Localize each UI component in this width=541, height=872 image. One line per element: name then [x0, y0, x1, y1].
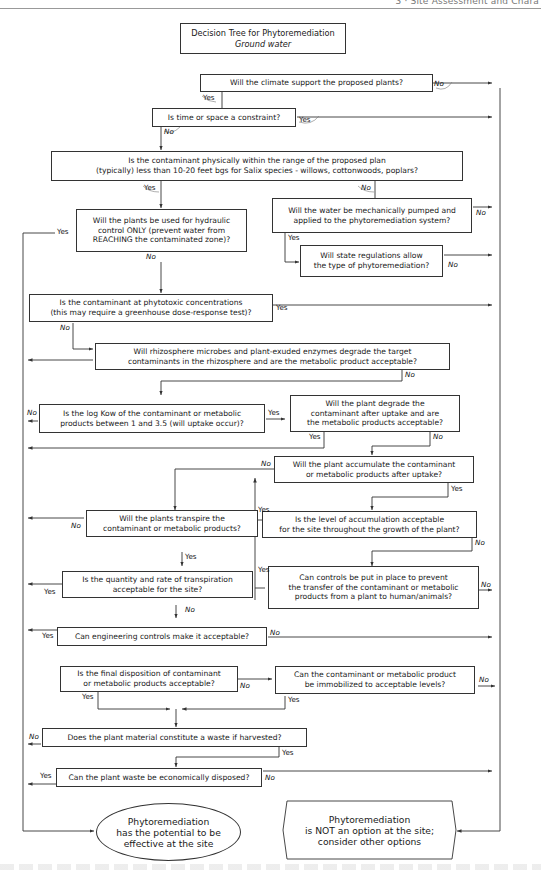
label-waste-no: No [29, 733, 39, 741]
label-immobilized-yes: Yes [288, 696, 300, 704]
label-transprate-no: No [185, 606, 195, 614]
label-timespace-no: No [164, 128, 174, 136]
label-accumulate-yes: Yes [451, 485, 463, 493]
label-transpire-no: No [71, 522, 81, 530]
node-contaminant-range: Is the contaminant physically within the… [51, 151, 463, 181]
figure-caption-cropped [0, 864, 541, 870]
outcome-not-option: Phytoremediation is NOT an option at the… [282, 800, 457, 860]
node-transpiration-rate: Is the quantity and rate of transpiratio… [62, 571, 253, 598]
label-accumlevel-no: No [475, 539, 485, 547]
label-degrade-no: No [433, 433, 443, 441]
label-immobilized-no: No [479, 676, 489, 684]
node-plant-degrade: Will the plant degrade the contaminant a… [290, 395, 460, 432]
label-disposed-yes: Yes [40, 772, 52, 780]
diagram-title-box: Decision Tree for Phytoremediation Groun… [180, 23, 346, 54]
label-range-no: No [361, 184, 371, 192]
label-controls-no: No [481, 581, 491, 589]
label-degrade-yes: Yes [309, 433, 321, 441]
node-final-disposition: Is the final disposition of contaminant … [60, 666, 238, 692]
node-accumulation-level: Is the level of accumulation acceptable … [262, 511, 477, 538]
label-accumulate-no: No [261, 460, 271, 468]
label-phytotoxic-no: No [60, 324, 70, 332]
label-stateregs-no: No [448, 261, 458, 269]
node-plant-accumulate: Will the plant accumulate the contaminan… [274, 456, 474, 483]
label-rhizosphere-no: No [405, 371, 415, 379]
diagram-subtitle: Ground water [181, 39, 345, 50]
label-transprate-yes: Yes [44, 588, 56, 596]
node-hydraulic-control: Will the plants be used for hydraulic co… [76, 209, 247, 252]
node-immobilized: Can the contaminant or metabolic product… [275, 666, 475, 694]
label-controls-yes: Yes [258, 566, 270, 574]
label-climate-no: No [434, 80, 444, 88]
label-engineering-yes: Yes [42, 632, 54, 640]
node-engineering-controls: Can engineering controls make it accepta… [57, 627, 267, 646]
label-transpire-yes: Yes [185, 553, 197, 561]
label-timespace-yes: Yes [299, 116, 311, 124]
node-log-kow: Is the log Kow of the contaminant or met… [39, 404, 265, 433]
label-hydraulic-yes: Yes [57, 228, 69, 236]
label-pumped-no: No [476, 209, 486, 217]
label-climate-yes: Yes [203, 94, 215, 102]
node-time-space: Is time or space a constraint? [152, 108, 296, 127]
node-economic-disposal: Can the plant waste be economically disp… [56, 768, 262, 787]
label-phytotoxic-yes: Yes [276, 304, 288, 312]
node-rhizosphere: Will rhizosphere microbes and plant-exud… [95, 343, 450, 370]
label-engineering-no: No [270, 629, 280, 637]
label-finaldisp-no: No [240, 682, 250, 690]
label-range-yes: Yes [144, 184, 156, 192]
node-plants-transpire: Will the plants transpire the contaminan… [86, 510, 258, 537]
label-logkow-no: No [27, 409, 37, 417]
label-logkow-yes: Yes [268, 409, 280, 417]
node-transfer-controls: Can controls be put in place to prevent … [268, 566, 479, 609]
label-finaldisp-yes: Yes [82, 693, 94, 701]
label-pumped-yes: Yes [288, 234, 300, 242]
outcome-effective: Phytoremediation has the potential to be… [96, 803, 241, 861]
node-plant-waste: Does the plant material constitute a was… [42, 728, 307, 747]
node-mechanically-pumped: Will the water be mechanically pumped an… [272, 198, 472, 233]
diagram-title: Decision Tree for Phytoremediation [181, 28, 345, 39]
label-hydraulic-no: No [146, 253, 156, 261]
node-climate: Will the climate support the proposed pl… [200, 74, 433, 92]
node-state-regulations: Will state regulations allow the type of… [300, 245, 443, 277]
label-disposed-no: No [265, 774, 275, 782]
label-accumlevel-yes: Yes [258, 506, 270, 514]
node-phytotoxic: Is the contaminant at phytotoxic concent… [29, 294, 273, 322]
label-waste-yes: Yes [282, 749, 294, 757]
